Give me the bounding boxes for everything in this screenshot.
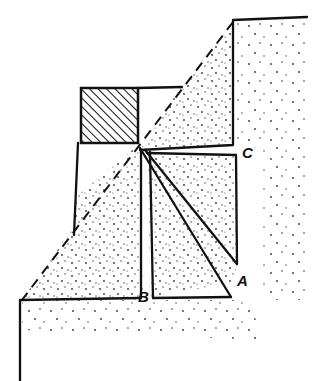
diagram-canvas: C A B <box>0 0 313 381</box>
label-c: C <box>242 144 254 161</box>
soil-stipple <box>22 17 307 340</box>
label-a: A <box>236 272 248 289</box>
label-b: B <box>138 288 149 305</box>
hatched-block <box>81 88 138 143</box>
